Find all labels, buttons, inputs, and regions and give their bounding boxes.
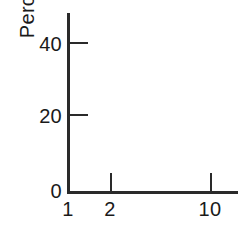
x-tick-mark-10 [210,173,212,192]
y-tick-label-40: 40 [32,34,62,54]
y-tick-mark-20 [70,114,88,116]
x-tick-label-10: 10 [190,199,230,219]
plot-area [70,13,238,191]
y-tick-mark-40 [70,42,88,44]
x-tick-label-2: 2 [90,199,130,219]
y-tick-label-0: 0 [32,181,62,201]
x-tick-mark-2 [110,173,112,192]
y-tick-label-20: 20 [32,106,62,126]
chart-figure: Perc 40 20 0 1 2 10 [0,0,247,235]
x-tick-label-1: 1 [48,199,88,219]
x-axis-line [67,191,238,194]
